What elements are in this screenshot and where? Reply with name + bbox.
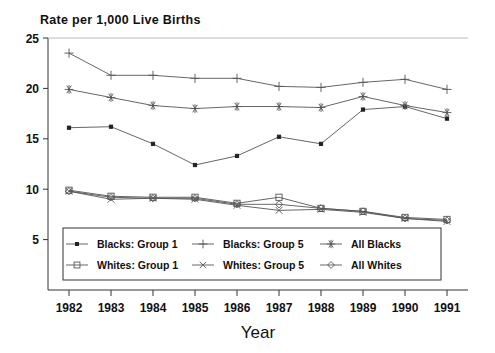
svg-text:Year: Year — [241, 323, 276, 342]
legend-label: All Blacks — [351, 238, 401, 250]
series-line — [69, 89, 447, 112]
svg-text:1991: 1991 — [434, 301, 461, 315]
data-point-marker — [193, 163, 196, 166]
svg-text:1983: 1983 — [98, 301, 125, 315]
svg-text:1982: 1982 — [56, 301, 83, 315]
legend-label: Whites: Group 1 — [97, 259, 178, 271]
svg-text:5: 5 — [32, 233, 39, 247]
series-line — [69, 191, 447, 220]
series-whites-group-1 — [66, 187, 450, 222]
data-point-marker — [148, 71, 157, 80]
legend: Blacks: Group 1Blacks: Group 5All Blacks… — [63, 228, 441, 280]
svg-text:1990: 1990 — [392, 301, 419, 315]
chart-container: Rate per 1,000 Live Births51015202519821… — [0, 0, 495, 353]
series-whites-group-5 — [66, 188, 451, 225]
x-axis-ticks: 1982198319841985198619871988198919901991 — [56, 290, 461, 315]
data-point-marker — [191, 104, 200, 113]
x-axis-label: Year — [241, 323, 276, 342]
svg-text:1989: 1989 — [350, 301, 377, 315]
svg-text:Rate per 1,000 Live Births: Rate per 1,000 Live Births — [40, 13, 201, 27]
legend-label: Blacks: Group 5 — [223, 238, 304, 250]
svg-text:15: 15 — [26, 132, 40, 146]
data-point-marker — [151, 142, 154, 145]
data-point-marker — [233, 102, 242, 111]
svg-text:1984: 1984 — [140, 301, 167, 315]
data-point-marker — [400, 75, 409, 84]
data-point-marker — [442, 85, 451, 94]
y-axis-ticks: 510152025 — [26, 32, 48, 248]
series-line — [69, 53, 447, 89]
legend-label: Blacks: Group 1 — [97, 238, 178, 250]
data-point-marker — [359, 92, 368, 101]
data-point-marker — [235, 154, 238, 157]
svg-text:10: 10 — [26, 183, 40, 197]
data-point-marker — [149, 101, 158, 110]
svg-text:1987: 1987 — [266, 301, 293, 315]
series-line — [69, 107, 447, 165]
data-point-marker — [316, 83, 325, 92]
data-point-marker — [361, 108, 364, 111]
line-chart: Rate per 1,000 Live Births51015202519821… — [0, 0, 495, 353]
data-point-marker — [274, 82, 283, 91]
data-point-marker — [401, 101, 410, 110]
data-point-marker — [190, 74, 199, 83]
series-blacks-group-5 — [64, 49, 451, 94]
svg-text:1985: 1985 — [182, 301, 209, 315]
series-line — [69, 191, 447, 221]
data-point-marker — [109, 125, 112, 128]
chart-title: Rate per 1,000 Live Births — [40, 13, 201, 27]
data-point-marker — [107, 93, 116, 102]
data-point-marker — [445, 117, 448, 120]
svg-text:25: 25 — [26, 32, 40, 46]
series-all-whites — [65, 188, 450, 224]
data-point-marker — [443, 108, 452, 117]
data-point-marker — [106, 71, 115, 80]
series-group — [64, 49, 451, 225]
data-point-marker — [275, 102, 284, 111]
svg-text:20: 20 — [26, 82, 40, 96]
data-point-marker — [319, 142, 322, 145]
legend-box — [63, 228, 441, 280]
data-point-marker — [232, 74, 241, 83]
series-all-blacks — [65, 85, 452, 117]
series-blacks-group-1 — [67, 105, 448, 167]
series-line — [69, 190, 447, 219]
legend-label: Whites: Group 5 — [223, 259, 304, 271]
data-point-marker — [64, 49, 73, 58]
data-point-marker — [75, 242, 78, 245]
data-point-marker — [67, 126, 70, 129]
data-point-marker — [317, 103, 326, 112]
svg-text:1986: 1986 — [224, 301, 251, 315]
data-point-marker — [65, 85, 74, 94]
data-point-marker — [277, 135, 280, 138]
data-point-marker — [358, 78, 367, 87]
legend-label: All Whites — [351, 259, 402, 271]
svg-text:1988: 1988 — [308, 301, 335, 315]
